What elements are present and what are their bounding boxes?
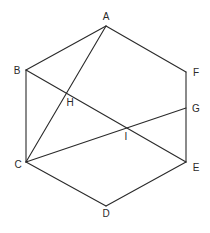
label-c: C xyxy=(14,159,21,170)
label-e: E xyxy=(193,162,200,173)
segment-cd xyxy=(26,162,106,206)
label-d: D xyxy=(102,208,109,219)
segment-fa xyxy=(106,26,186,72)
label-f: F xyxy=(193,67,199,78)
label-i: I xyxy=(125,131,128,142)
label-a: A xyxy=(103,11,110,22)
segment-de xyxy=(106,162,186,206)
hexagon-diagram: A B F G H I C E D xyxy=(0,0,210,233)
label-h: H xyxy=(66,97,73,108)
label-g: G xyxy=(192,103,200,114)
segment-ab xyxy=(26,26,106,70)
segment-ac xyxy=(26,26,106,162)
label-b: B xyxy=(14,65,21,76)
